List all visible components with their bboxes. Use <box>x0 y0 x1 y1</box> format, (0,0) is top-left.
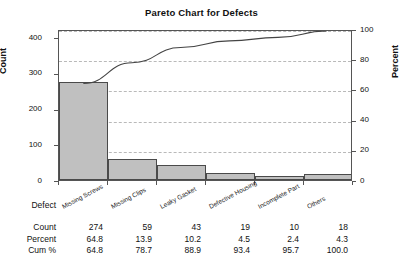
table-cell: 2.4 <box>255 234 299 244</box>
table-cell: 13.9 <box>108 234 152 244</box>
plot-inner <box>59 31 351 180</box>
table-cell: 64.8 <box>59 234 103 244</box>
y-tick-label-percent: 60 <box>360 85 369 94</box>
table-cell: 100.0 <box>304 245 348 255</box>
table-cell: 64.8 <box>59 245 103 255</box>
y-tick-label-count: 100 <box>29 140 42 149</box>
table-cell: 10.2 <box>157 234 201 244</box>
table-cell: 95.7 <box>255 245 299 255</box>
table-cell: 4.3 <box>304 234 348 244</box>
table-axis-label: Defect <box>8 200 56 210</box>
y-tick-label-count: 400 <box>29 33 42 42</box>
chart-title: Pareto Chart for Defects <box>0 7 403 18</box>
y-tick-label-count: 200 <box>29 104 42 113</box>
y-tick-label-percent: 100 <box>360 25 373 34</box>
table-cell: 59 <box>108 222 152 232</box>
y-tick-mark-percent <box>352 151 356 152</box>
x-tick-mark <box>156 181 157 185</box>
cumulative-line-svg <box>59 31 351 180</box>
y-tick-label-count: 0 <box>38 176 42 185</box>
y-tick-mark-percent <box>352 121 356 122</box>
table-row-label: Count <box>8 222 56 232</box>
y-tick-label-percent: 20 <box>360 145 369 154</box>
table-cell: 274 <box>59 222 103 232</box>
y-tick-label-percent: 40 <box>360 115 369 124</box>
x-tick-mark <box>303 181 304 185</box>
y-tick-label-percent: 80 <box>360 55 369 64</box>
table-cell: 43 <box>157 222 201 232</box>
table-cell: 10 <box>255 222 299 232</box>
category-label: Missing Clips <box>110 186 147 210</box>
category-label: Missing Screws <box>61 183 104 210</box>
plot-area <box>58 30 352 181</box>
y-tick-label-percent: 0 <box>360 176 364 185</box>
x-tick-mark <box>205 181 206 185</box>
table-cell: 78.7 <box>108 245 152 255</box>
table-row-label: Cum % <box>8 245 56 255</box>
table-cell: 93.4 <box>206 245 250 255</box>
x-tick-mark <box>107 181 108 185</box>
x-tick-mark <box>58 181 59 185</box>
y-axis-label-percent: Percent <box>390 45 400 78</box>
table-cell: 19 <box>206 222 250 232</box>
category-label: Others <box>306 195 327 210</box>
y-tick-mark-count <box>54 38 58 39</box>
category-label: Leaky Gasket <box>159 185 197 210</box>
table-cell: 4.5 <box>206 234 250 244</box>
table-cell: 18 <box>304 222 348 232</box>
pareto-chart: Pareto Chart for Defects 010020030040002… <box>0 0 403 274</box>
x-tick-mark <box>352 181 353 185</box>
y-tick-mark-percent <box>352 90 356 91</box>
y-axis-label-count: Count <box>0 48 8 74</box>
y-tick-mark-percent <box>352 30 356 31</box>
cumulative-line-layer <box>59 31 351 180</box>
category-label: Incomplete Part <box>257 182 300 210</box>
y-tick-label-count: 300 <box>29 68 42 77</box>
table-row-label: Percent <box>8 234 56 244</box>
y-tick-mark-count <box>54 145 58 146</box>
y-tick-mark-percent <box>352 60 356 61</box>
y-tick-mark-count <box>54 110 58 111</box>
y-tick-mark-count <box>54 74 58 75</box>
category-label: Defective Housing <box>208 179 258 210</box>
table-cell: 88.9 <box>157 245 201 255</box>
